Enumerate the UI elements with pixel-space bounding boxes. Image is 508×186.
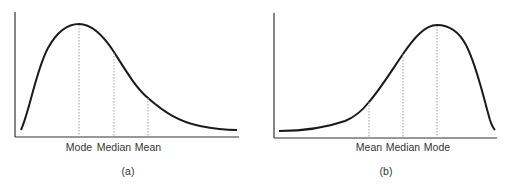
label-mean-a: Mean (135, 141, 161, 153)
panel-b: Mean Median Mode (b) (274, 13, 497, 177)
caption-a: (a) (122, 165, 135, 177)
label-median-b: Median (386, 141, 421, 153)
panel-a: Mode Median Mean (a) (15, 12, 239, 177)
label-mode-b: Mode (424, 141, 450, 153)
caption-b: (b) (380, 165, 393, 177)
curve-a (21, 24, 237, 130)
label-median-a: Median (97, 141, 132, 153)
skewness-diagram: Mode Median Mean (a) Mean Median Mode (b… (0, 0, 508, 186)
label-mean-b: Mean (356, 141, 382, 153)
label-mode-a: Mode (66, 141, 92, 153)
curve-b (279, 25, 495, 131)
